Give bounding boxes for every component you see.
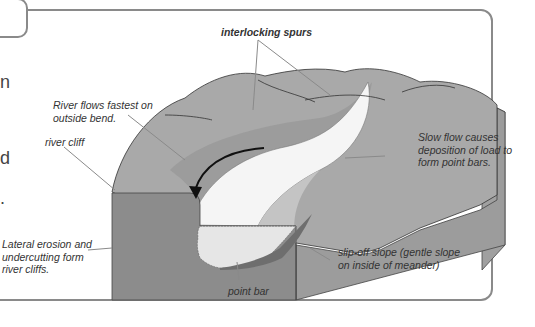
label-point-bar: point bar (228, 285, 269, 298)
label-river-flows-fastest: River flows fastest on outside bend. (53, 99, 153, 124)
label-slip-off-slope: slip-off slope (gentle slope on inside o… (338, 246, 460, 271)
label-lateral-erosion: Lateral erosion and undercutting form ri… (2, 238, 92, 276)
label-slow-flow: Slow flow causes deposition of load to f… (418, 131, 512, 169)
label-river-cliff: river cliff (45, 136, 84, 149)
label-interlocking-spurs: interlocking spurs (221, 26, 312, 39)
